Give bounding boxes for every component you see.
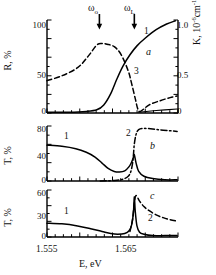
panel-b-ytick-40: 40 (24, 151, 46, 161)
panel-a-ytick-right-1-0: 1.0 (177, 20, 203, 30)
figure-container: ωo ωL R, % K, 10-6cm-1 100 50 0 1.0 0.5 … (0, 0, 216, 275)
omega-o-subscript: o (95, 8, 99, 16)
panel-b-ytick-0: 0 (24, 175, 46, 185)
annotation-omega-o: ωo (88, 2, 98, 16)
panel-a-ytick-right-0: 0 (177, 106, 203, 116)
panel-b-ytick-80: 80 (24, 124, 46, 134)
omega-o-symbol: ω (88, 2, 95, 13)
x-axis-title: E, eV (79, 258, 102, 269)
panel-c-ytick-0: 0 (24, 231, 46, 241)
panel-c-ytick-60: 60 (24, 188, 46, 198)
annotation-arrows (97, 14, 138, 29)
curve-a-baseline (139, 109, 177, 112)
panel-a-ytick-50: 50 (24, 70, 46, 80)
panel-a-curve-label-1: 1 (144, 26, 149, 36)
curve-b-2 (100, 128, 177, 181)
axes-layer (47, 20, 178, 237)
panel-c-ylabel: T, % (2, 208, 13, 227)
curves-layer (47, 21, 177, 236)
panel-b-curve-label-1: 1 (64, 131, 69, 141)
panel-a-ylabel-right-unit: cm (191, 5, 202, 17)
panel-a-letter: a (146, 46, 151, 57)
panel-c-letter: c (150, 190, 154, 201)
panel-b-letter: b (150, 140, 155, 151)
curve-a-3 (47, 43, 177, 111)
arrow-head-1 (132, 24, 138, 30)
panel-c-curve-label-1: 1 (64, 206, 69, 216)
arrow-head-0 (97, 24, 103, 30)
panel-a-ylabel-left: R, % (2, 51, 13, 71)
xtick-label-1-555: 1.555 (36, 244, 57, 254)
panel-a-ylabel-right-exp2: -1 (190, 0, 197, 5)
panel-c-ytick-30: 30 (24, 211, 46, 221)
annotation-omega-l: ωL (124, 2, 135, 16)
omega-l-symbol: ω (124, 2, 131, 13)
curve-a-1 (47, 21, 175, 112)
panel-a-ytick-0: 0 (24, 106, 46, 116)
panel-a-ytick-right-0-5: 0.5 (177, 70, 203, 80)
panel-b-ylabel: T, % (2, 146, 13, 165)
curve-b-1 (47, 145, 177, 180)
curve-c-1 (47, 197, 177, 236)
panel-c-curve-label-2: 2 (148, 213, 153, 223)
xtick-label-1-565: 1.565 (115, 244, 136, 254)
panel-b-curve-label-2: 2 (126, 128, 131, 138)
panel-a-curve-label-3: 3 (134, 66, 139, 76)
omega-l-subscript: L (131, 8, 135, 16)
panel-a-ytick-100: 100 (24, 20, 46, 30)
